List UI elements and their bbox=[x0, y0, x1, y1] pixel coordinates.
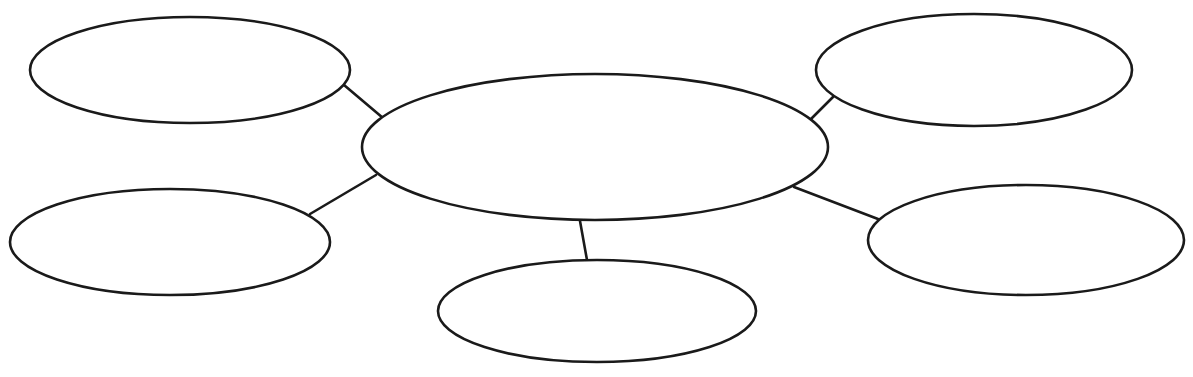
node-top-left bbox=[30, 17, 350, 123]
bottom-center-ellipse bbox=[438, 260, 756, 362]
bottom-left-ellipse bbox=[10, 189, 330, 295]
connector-bottom-center bbox=[580, 221, 587, 260]
connector-top-left bbox=[344, 85, 383, 118]
connector-top-right bbox=[811, 97, 833, 119]
node-top-right bbox=[816, 14, 1132, 126]
node-bottom-center bbox=[438, 260, 756, 362]
node-bottom-right bbox=[868, 185, 1184, 295]
bottom-right-ellipse bbox=[868, 185, 1184, 295]
bubble-map-diagram bbox=[0, 0, 1193, 377]
node-bottom-left bbox=[10, 189, 330, 295]
center-node bbox=[362, 74, 828, 220]
top-left-ellipse bbox=[30, 17, 350, 123]
connector-bottom-left bbox=[310, 175, 376, 214]
center-ellipse bbox=[362, 74, 828, 220]
connector-bottom-right bbox=[794, 187, 878, 219]
top-right-ellipse bbox=[816, 14, 1132, 126]
diagram-svg bbox=[0, 0, 1193, 377]
